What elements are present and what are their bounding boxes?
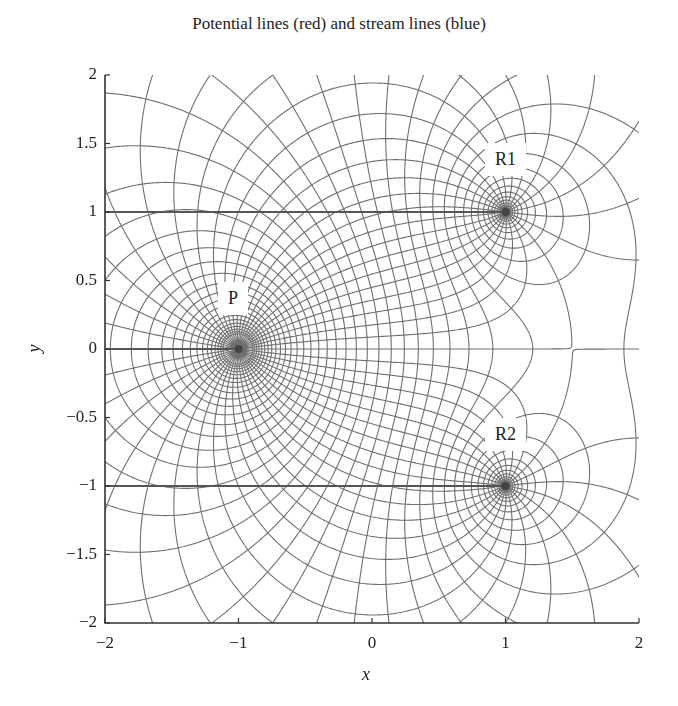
- x-tick-label: 0: [342, 633, 402, 653]
- y-tick-label: −0.5: [37, 407, 97, 427]
- point-label-r1: R1: [485, 143, 526, 176]
- y-tick-label: −2: [37, 612, 97, 632]
- contour-plot-area: [0, 0, 678, 706]
- y-tick-label: 1: [37, 201, 97, 221]
- y-axis-label: y: [24, 345, 45, 353]
- y-tick-label: 1.5: [37, 133, 97, 153]
- y-tick-label: 0: [37, 338, 97, 358]
- x-tick-label: 1: [476, 633, 536, 653]
- y-tick-label: −1: [37, 475, 97, 495]
- y-tick-label: 2: [37, 64, 97, 84]
- point-label-p: P: [218, 282, 248, 315]
- point-label-r2: R2: [485, 418, 526, 451]
- y-tick-label: −1.5: [37, 544, 97, 564]
- x-tick-label: 2: [609, 633, 669, 653]
- x-tick-label: −2: [75, 633, 135, 653]
- x-axis-label: x: [362, 664, 370, 685]
- y-tick-label: 0.5: [37, 270, 97, 290]
- x-tick-label: −1: [209, 633, 269, 653]
